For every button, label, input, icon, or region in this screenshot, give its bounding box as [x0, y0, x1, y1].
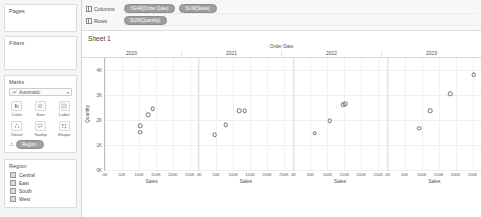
plot-wrapper: Quantity 4K3K2K1K0K — [82, 58, 481, 171]
x-axis-tick: 50K — [401, 172, 408, 177]
scatter-point-east[interactable] — [448, 91, 453, 96]
legend-item-west[interactable]: West — [5, 195, 76, 203]
y-axis: Quantity 4K3K2K1K0K — [82, 58, 104, 170]
filters-shelf-dropzone[interactable] — [5, 48, 76, 62]
x-axis-tick: 50K — [307, 172, 314, 177]
scatter-panel-2023[interactable] — [387, 58, 481, 171]
size-circle-icon — [35, 101, 46, 111]
scatter-point-west[interactable] — [343, 101, 348, 106]
main-area: Columns YEAR(Order Date) SUM(Sales) Rows… — [82, 0, 481, 217]
legend-label-east: East — [19, 181, 29, 186]
columns-shelf-row: Columns YEAR(Order Date) SUM(Sales) — [82, 3, 481, 15]
columns-shelf-label: Columns — [86, 6, 120, 12]
x-axis-tick: 150K — [245, 172, 255, 177]
x-axis-container: 0K50K100K150K200K250KSales0K50K100K150K2… — [104, 171, 481, 186]
tooltip-icon — [35, 121, 46, 131]
x-axis-tick: 200K — [451, 172, 461, 177]
scatter-point-east[interactable] — [146, 113, 151, 118]
columns-shelf-dropzone[interactable]: YEAR(Order Date) SUM(Sales) — [124, 4, 477, 14]
x-axis-tick: 100K — [134, 172, 144, 177]
gridline-vertical — [456, 58, 457, 170]
y-axis-tick: 2K — [96, 118, 102, 123]
legend-item-east[interactable]: East — [5, 179, 76, 187]
x-axis-tick: 100K — [323, 172, 333, 177]
gridline-vertical — [405, 58, 406, 170]
scatter-point-south[interactable] — [138, 130, 143, 135]
legend-swatch-icon — [10, 196, 16, 202]
x-axis-tick: 50K — [118, 172, 125, 177]
gridline-horizontal — [388, 70, 481, 71]
x-axis-panel-2022: 0K50K100K150K200K250KSales — [293, 171, 387, 186]
x-axis-tick: 50K — [213, 172, 220, 177]
region-legend-card: Region Central East South West — [4, 159, 77, 208]
gridline-vertical — [284, 58, 285, 170]
scatter-point-west[interactable] — [471, 73, 476, 78]
filters-shelf-card[interactable]: Filters — [4, 36, 77, 70]
legend-label-west: West — [19, 197, 30, 202]
scatter-point-west[interactable] — [242, 109, 247, 114]
gridline-vertical — [361, 58, 362, 170]
gridline-vertical — [216, 58, 217, 170]
visualization-canvas[interactable]: Order Date 2020202120222023 Quantity 4K3… — [82, 44, 481, 217]
scatter-panel-2020[interactable] — [105, 58, 198, 171]
legend-item-south[interactable]: South — [5, 187, 76, 195]
scatter-point-west[interactable] — [151, 106, 156, 111]
x-axis-tick: 250K — [279, 172, 289, 177]
scatter-point-central[interactable] — [327, 119, 332, 124]
y-axis-title: Quantity — [85, 105, 90, 123]
scatter-panel-2021[interactable] — [198, 58, 292, 171]
x-axis-tick: 200K — [168, 172, 178, 177]
rows-shelf-dropzone[interactable]: SUM(Quantity) — [124, 16, 477, 26]
pages-shelf-dropzone[interactable] — [5, 16, 76, 30]
rows-shelf-label: Rows — [86, 18, 120, 24]
pages-shelf-card[interactable]: Pages — [4, 4, 77, 32]
marks-size-label: Size — [36, 112, 45, 117]
gridline-vertical — [199, 58, 200, 170]
gridline-horizontal — [105, 95, 198, 96]
columns-pill-order-date[interactable]: YEAR(Order Date) — [124, 4, 175, 13]
gridline-vertical — [267, 58, 268, 170]
x-axis-tick: 250K — [185, 172, 195, 177]
x-axis-tick: 250K — [468, 172, 478, 177]
scatter-point-east[interactable] — [237, 109, 242, 114]
x-axis-tick: 200K — [357, 172, 367, 177]
scatter-point-south[interactable] — [417, 126, 422, 131]
chevron-down-icon[interactable]: ▾ — [67, 90, 69, 95]
rows-pill-quantity[interactable]: SUM(Quantity) — [124, 16, 167, 25]
gridline-horizontal — [388, 95, 481, 96]
scatter-point-central[interactable] — [428, 109, 433, 114]
legend-item-central[interactable]: Central — [5, 171, 76, 179]
rows-shelf-row: Rows SUM(Quantity) — [82, 15, 481, 27]
gridline-vertical — [250, 58, 251, 170]
x-axis-tick: 0K — [197, 172, 202, 177]
scatter-point-central[interactable] — [138, 124, 143, 129]
gridline-vertical — [139, 58, 140, 170]
mark-type-dropdown[interactable]: Automatic ▾ — [9, 88, 72, 96]
marks-shape-button[interactable]: Shape — [52, 119, 76, 139]
marks-size-button[interactable]: Size — [29, 99, 53, 119]
marks-color-button[interactable]: Color — [5, 99, 29, 119]
columns-pill-sales[interactable]: SUM(Sales) — [179, 4, 217, 13]
sidebar-filler — [0, 208, 81, 217]
scatter-point-south[interactable] — [212, 132, 217, 137]
scatter-point-south[interactable] — [312, 131, 317, 136]
marks-region-pill[interactable]: Region — [16, 140, 44, 149]
x-axis-title: Sales — [105, 179, 198, 184]
marks-detail-button[interactable]: Detail — [5, 119, 29, 139]
marks-tooltip-button[interactable]: Tooltip — [29, 119, 53, 139]
marks-tooltip-label: Tooltip — [34, 132, 47, 137]
gridline-horizontal — [105, 145, 198, 146]
column-year-label-2020: 2020 — [82, 50, 181, 57]
x-axis-tick: 200K — [262, 172, 272, 177]
gridline-vertical — [294, 58, 295, 170]
filters-shelf-title: Filters — [5, 37, 76, 48]
column-year-headers: 2020202120222023 — [82, 50, 481, 58]
marks-label-button[interactable]: Label — [52, 99, 76, 119]
scatter-panel-2022[interactable] — [293, 58, 387, 171]
gridline-vertical — [378, 58, 379, 170]
mark-type-label: Automatic — [19, 90, 40, 95]
marks-label-label: Label — [59, 112, 70, 117]
gridline-vertical — [105, 58, 106, 170]
scatter-point-central[interactable] — [223, 122, 228, 127]
left-sidebar: Pages Filters Marks Automatic ▾ — [0, 0, 82, 217]
